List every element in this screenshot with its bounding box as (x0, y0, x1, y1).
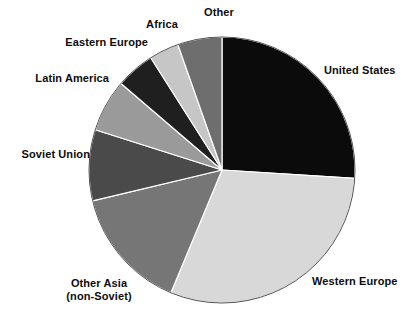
pie-label-other-asia-line1: Other Asia (44, 277, 154, 290)
pie-label-other-asia-line2: (non-Soviet) (44, 290, 154, 303)
pie-label-soviet-union: Soviet Union (6, 148, 90, 161)
pie-label-western-europe-text: Western Europe (312, 275, 398, 287)
pie-label-other-asia: Other Asia (non-Soviet) (44, 277, 154, 303)
pie-label-united-states: United States (324, 64, 396, 77)
pie-slice-united-states[interactable] (222, 37, 355, 178)
pie-label-eastern-europe: Eastern Europe (48, 36, 148, 49)
pie-label-united-states-text: United States (324, 64, 396, 76)
pie-label-western-europe: Western Europe (312, 275, 398, 288)
pie-label-other: Other (196, 6, 242, 19)
pie-slice-group (89, 37, 355, 303)
pie-label-latin-america: Latin America (17, 72, 109, 85)
pie-label-soviet-union-text: Soviet Union (22, 148, 90, 160)
pie-chart-figure: United States Western Europe Other Asia … (0, 0, 416, 333)
pie-label-africa: Africa (137, 18, 187, 31)
pie-label-africa-text: Africa (146, 18, 178, 30)
pie-label-other-text: Other (204, 6, 234, 18)
pie-label-latin-america-text: Latin America (35, 72, 109, 84)
pie-label-eastern-europe-text: Eastern Europe (65, 36, 148, 48)
